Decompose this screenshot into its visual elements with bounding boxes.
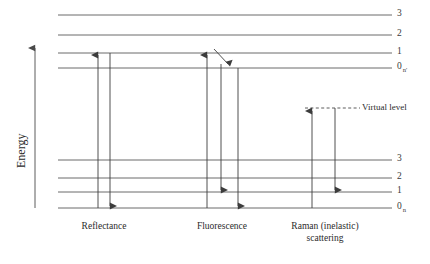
level-label-excited-3: 3 (397, 9, 402, 19)
fluorescence-relaxation-arrow (214, 49, 228, 64)
level-label-ground-1: 1 (397, 186, 402, 196)
level-label-ground-2: 2 (397, 172, 402, 182)
level-label-ground-0-value: 0 (397, 201, 402, 211)
virtual-level-label: Virtual level (362, 103, 407, 112)
process-label-reflectance: Reflectance (54, 221, 154, 233)
level-label-excited-0-value: 0 (397, 61, 402, 71)
process-label-raman-line1: Raman (inelastic) (291, 221, 358, 231)
level-label-ground-3: 3 (397, 154, 402, 164)
ground-state-levels (58, 160, 392, 208)
process-label-raman-line2: scattering (307, 233, 344, 243)
process-label-raman: Raman (inelastic) scattering (272, 221, 378, 244)
level-label-excited-1: 1 (397, 47, 402, 57)
excited-state-levels (58, 15, 392, 68)
energy-level-diagram: Energy 3 2 1 0n' 3 2 1 0n Virtual level … (0, 0, 430, 264)
fluorescence-transitions (207, 49, 238, 208)
energy-axis-label: Energy (14, 134, 29, 168)
level-label-ground-0: 0n (397, 202, 406, 213)
level-label-excited-0: 0n' (397, 62, 407, 73)
level-label-excited-2: 2 (397, 29, 402, 39)
level-label-ground-0-subscript: n (403, 206, 406, 213)
raman-transitions (312, 108, 335, 208)
process-label-fluorescence: Fluorescence (172, 221, 272, 233)
level-label-excited-0-subscript: n' (403, 66, 407, 73)
reflectance-transitions (98, 53, 110, 208)
